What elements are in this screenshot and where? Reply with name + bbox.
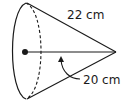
arrowhead-icon xyxy=(58,56,64,62)
cone-diagram xyxy=(0,0,123,111)
cone-base-hidden-arc xyxy=(26,3,41,99)
base-center-dot xyxy=(22,49,28,55)
height-label: 20 cm xyxy=(83,74,120,86)
slant-height-label: 22 cm xyxy=(67,9,104,21)
height-pointer-arrow xyxy=(61,60,80,79)
